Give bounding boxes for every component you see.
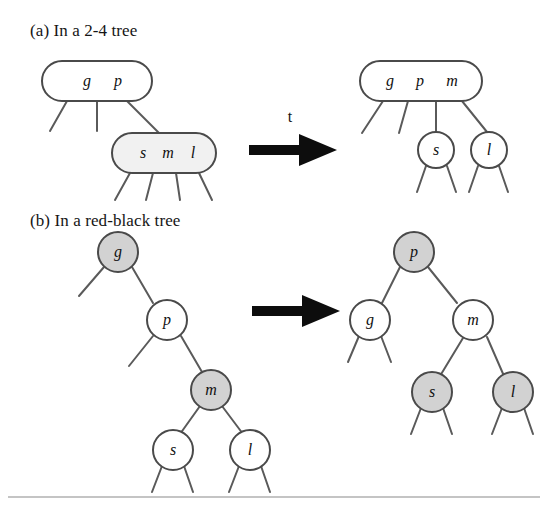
b-after-node-g-label: g [366, 311, 374, 329]
panel-b-transform-arrow [252, 295, 340, 327]
a-before-node-sml-key-s: s [140, 144, 146, 161]
panel-b-before-tree: g p m s [79, 232, 270, 492]
b-after-node-s: s [411, 372, 452, 434]
panel-a-after-tree: g p m s l [360, 61, 508, 192]
panel-b-arrow-icon [252, 295, 340, 327]
b-after-node-g: g [348, 300, 391, 362]
a-after-s-stub-1 [417, 166, 426, 192]
b-before-s-stub-1 [152, 466, 162, 492]
b-after-p-to-m [428, 267, 457, 303]
a-before-child-stub-1 [115, 173, 130, 200]
b-before-node-g-label: g [114, 243, 122, 261]
a-after-node-l: l [469, 132, 508, 192]
a-after-node-gpm-key-p: p [415, 72, 424, 90]
a-before-node-sml-key-l: l [191, 144, 196, 161]
a-before-node-gp-key-p: p [113, 72, 122, 90]
a-before-child-stub-2 [146, 173, 153, 200]
a-before-child-stub-4 [199, 173, 212, 200]
b-before-node-m-label: m [205, 381, 217, 398]
a-after-root-edge-to-l [462, 101, 487, 132]
b-after-node-m: m [453, 300, 493, 340]
a-before-node-sml: s m l [112, 133, 216, 173]
a-after-node-s: s [417, 132, 456, 192]
b-after-node-l-label: l [511, 383, 516, 400]
b-after-g-stub-1 [348, 336, 359, 362]
a-before-root-stub-1 [50, 101, 67, 131]
b-after-node-s-label: s [429, 383, 435, 400]
panel-a-arrow-icon [249, 134, 337, 166]
panel-b: (b) In a red-black tree g p m [30, 211, 533, 492]
b-before-m-to-l [222, 406, 243, 434]
a-before-node-gp-box [42, 61, 152, 101]
b-before-p-left-stub [129, 336, 153, 366]
panel-a-before-tree: g p s m l [42, 61, 216, 200]
a-after-l-stub-1 [469, 166, 478, 192]
a-after-node-gpm: g p m [360, 61, 482, 101]
a-after-root-stub-1 [362, 101, 383, 133]
panel-a: (a) In a 2-4 tree g p s m l [30, 21, 508, 200]
b-after-s-stub-1 [411, 408, 421, 434]
caption-panel-a: (a) In a 2-4 tree [30, 21, 137, 40]
b-before-node-m: m [191, 370, 231, 410]
b-before-node-s-label: s [170, 441, 176, 458]
a-after-root-stub-2 [399, 101, 408, 133]
b-before-l-stub-1 [229, 466, 239, 492]
a-before-child-stub-3 [176, 173, 180, 200]
b-before-node-l: l [229, 430, 270, 492]
a-after-node-gpm-key-g: g [386, 72, 394, 90]
a-after-s-stub-2 [447, 166, 456, 192]
panel-a-transform-arrow: t [249, 108, 337, 166]
a-after-node-gpm-key-m: m [446, 72, 458, 89]
panel-b-after-tree: p g m s [348, 232, 533, 434]
b-after-node-p: p [394, 232, 434, 272]
b-before-node-p-label: p [162, 311, 171, 329]
b-after-g-stub-2 [381, 336, 391, 362]
b-after-p-to-g [381, 267, 400, 305]
b-before-g-left-stub [79, 267, 104, 296]
b-after-l-stub-1 [492, 408, 502, 434]
b-after-node-p-label: p [409, 243, 418, 261]
a-before-node-gp-key-g: g [83, 72, 91, 90]
b-before-l-stub-2 [261, 466, 270, 492]
a-after-node-s-label: s [433, 141, 439, 158]
b-before-m-to-s [180, 406, 200, 434]
b-before-node-s: s [152, 430, 193, 492]
a-after-l-stub-2 [499, 166, 508, 192]
b-before-p-to-m [181, 336, 202, 372]
a-before-node-gp: g p [42, 61, 152, 101]
b-after-l-stub-2 [524, 408, 533, 434]
b-after-node-l: l [492, 372, 533, 434]
b-after-s-stub-2 [443, 408, 452, 434]
figure-canvas: (a) In a 2-4 tree g p s m l [0, 0, 545, 507]
b-after-m-to-s [440, 338, 463, 376]
caption-panel-b: (b) In a red-black tree [30, 211, 181, 230]
a-after-node-l-label: l [487, 141, 492, 158]
b-before-node-p: p [147, 300, 187, 340]
b-before-node-l-label: l [248, 441, 253, 458]
b-before-s-stub-2 [184, 466, 193, 492]
b-before-node-g: g [98, 232, 138, 272]
b-after-node-m-label: m [467, 311, 479, 328]
b-before-g-to-p [132, 267, 153, 303]
a-before-root-edge-to-child [127, 101, 160, 134]
a-before-node-sml-key-m: m [162, 144, 174, 161]
b-after-m-to-l [487, 337, 504, 376]
panel-a-arrow-label-t: t [288, 108, 293, 125]
